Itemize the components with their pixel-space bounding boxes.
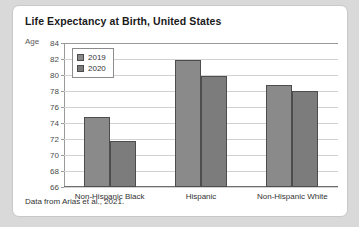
bar-2019[interactable] bbox=[266, 85, 292, 187]
legend-swatch-icon bbox=[77, 65, 84, 72]
chart-page: Life Expectancy at Birth, United States … bbox=[0, 0, 359, 227]
bar-group: Non-Hispanic White bbox=[266, 43, 318, 187]
plot-area: 84828078767472706866Non-Hispanic BlackHi… bbox=[64, 43, 338, 187]
legend-label: 2019 bbox=[88, 53, 106, 62]
legend-item-2020[interactable]: 2020 bbox=[77, 63, 106, 74]
y-axis-tick bbox=[61, 75, 64, 76]
source-note: Data from Arias et al., 2021. bbox=[25, 197, 124, 206]
x-axis-category-label: Non-Hispanic White bbox=[257, 192, 328, 201]
y-axis-label: Age bbox=[25, 37, 39, 46]
chart-card: Life Expectancy at Birth, United States … bbox=[12, 5, 348, 217]
y-axis-tick-label: 80 bbox=[50, 71, 59, 80]
y-axis-tick-label: 74 bbox=[50, 119, 59, 128]
bar-2019[interactable] bbox=[175, 60, 201, 187]
x-axis-category-label: Hispanic bbox=[186, 192, 217, 201]
legend-item-2019[interactable]: 2019 bbox=[77, 52, 106, 63]
y-axis-tick-label: 76 bbox=[50, 103, 59, 112]
y-axis-line bbox=[64, 43, 65, 187]
y-axis-tick bbox=[61, 91, 64, 92]
chart-legend: 20192020 bbox=[72, 48, 114, 78]
y-axis-tick-label: 72 bbox=[50, 135, 59, 144]
y-axis-tick bbox=[61, 107, 64, 108]
y-axis-tick-label: 70 bbox=[50, 151, 59, 160]
legend-label: 2020 bbox=[88, 64, 106, 73]
chart-title: Life Expectancy at Birth, United States bbox=[25, 15, 221, 27]
legend-swatch-icon bbox=[77, 54, 84, 61]
y-axis-tick-label: 66 bbox=[50, 183, 59, 192]
bar-2020[interactable] bbox=[201, 76, 227, 187]
y-axis-tick bbox=[61, 187, 64, 188]
y-axis-tick bbox=[61, 139, 64, 140]
bar-2020[interactable] bbox=[292, 91, 318, 187]
y-axis-tick-label: 82 bbox=[50, 55, 59, 64]
y-axis-tick bbox=[61, 59, 64, 60]
y-axis-tick bbox=[61, 155, 64, 156]
bar-group: Hispanic bbox=[175, 43, 227, 187]
bar-2020[interactable] bbox=[110, 141, 136, 187]
y-axis-tick bbox=[61, 171, 64, 172]
y-axis-tick-label: 78 bbox=[50, 87, 59, 96]
bar-2019[interactable] bbox=[84, 117, 110, 187]
gridline bbox=[64, 187, 338, 188]
y-axis-tick-label: 84 bbox=[50, 39, 59, 48]
y-axis-tick bbox=[61, 123, 64, 124]
y-axis-tick bbox=[61, 43, 64, 44]
y-axis-tick-label: 68 bbox=[50, 167, 59, 176]
